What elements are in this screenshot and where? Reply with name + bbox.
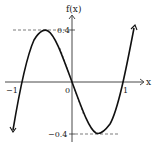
function-graph: f(x) x 0.4 −0.4 −1 0 1	[0, 0, 165, 149]
x-axis-label: x	[146, 77, 151, 87]
x-tick-label-0: 0	[65, 86, 70, 95]
function-curve	[13, 28, 134, 134]
x-tick-label-neg1: −1	[6, 86, 18, 95]
graph-svg: f(x) x 0.4 −0.4 −1 0 1	[0, 0, 165, 149]
y-axis-label: f(x)	[66, 4, 81, 14]
y-tick-label-pos: 0.4	[57, 26, 70, 35]
x-tick-label-1: 1	[123, 86, 128, 95]
y-tick-label-neg: −0.4	[48, 130, 67, 139]
